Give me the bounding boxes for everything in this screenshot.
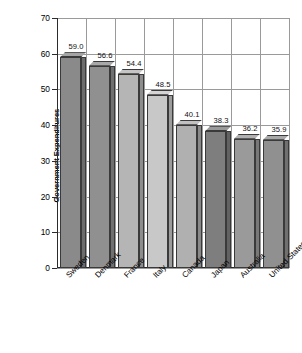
gridline-vertical [260,18,261,268]
bar [147,90,173,268]
gridline-vertical [173,18,174,268]
bar-chart: Government Expenditures as Percentage of… [0,0,302,353]
bar-front-face [234,139,255,268]
y-axis-tick-label: 0 [32,264,50,272]
bar [89,61,115,268]
y-axis-tick-label: 10 [32,228,50,236]
gridline-vertical [231,18,232,268]
gridline-vertical [144,18,145,268]
bar [205,126,231,268]
bar-side-face [197,125,202,268]
bar [176,120,202,268]
bar-side-face [110,66,115,268]
bar [234,134,260,268]
bar-value-label: 40.1 [177,111,207,119]
bar-front-face [205,131,226,268]
y-axis-line [57,18,58,268]
bar-front-face [147,95,168,268]
bar-front-face [176,125,197,268]
bar-side-face [226,131,231,268]
bar-side-face [139,74,144,268]
bar-value-label: 38.3 [206,117,236,125]
gridline-vertical [202,18,203,268]
bar-side-face [81,57,86,268]
y-axis-tick-label: 50 [32,85,50,93]
bar [60,52,86,268]
y-axis-tick-label: 30 [32,157,50,165]
bar-value-label: 56.6 [90,52,120,60]
bar-value-label: 35.9 [264,126,294,134]
bar-value-label: 36.2 [235,125,265,133]
y-axis-tick-label: 70 [32,14,50,22]
bar-front-face [89,66,110,268]
bar-side-face [255,139,260,268]
y-axis-tick-label: 60 [32,50,50,58]
y-axis-tick-label: 20 [32,192,50,200]
bar-value-label: 54.4 [119,60,149,68]
bar-value-label: 59.0 [61,43,91,51]
bar-front-face [118,74,139,268]
gridline-vertical [86,18,87,268]
bar-value-label: 48.5 [148,81,178,89]
y-axis-tick-label: 40 [32,121,50,129]
gridline-vertical [289,18,290,268]
bar-front-face [263,140,284,268]
bar-side-face [284,140,289,268]
bar [118,69,144,268]
bar-side-face [168,95,173,268]
bar [263,135,289,268]
bar-front-face [60,57,81,268]
